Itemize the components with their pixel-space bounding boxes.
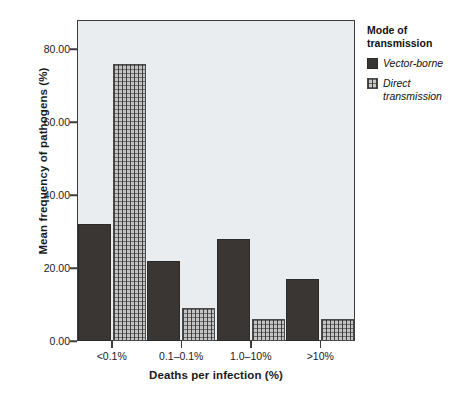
y-tick-mark — [70, 194, 77, 196]
y-tick-label: 80.00 — [10, 43, 70, 55]
legend-title-line2: transmission — [367, 37, 432, 49]
legend-item-direct-transmission[interactable]: Direct transmission — [367, 77, 452, 103]
plot-area — [77, 20, 355, 341]
direct-transmission-swatch-icon — [367, 78, 378, 89]
y-tick-mark — [70, 121, 77, 123]
legend-title-line1: Mode of — [367, 24, 407, 36]
vector-borne-swatch-icon — [367, 58, 378, 69]
legend-item-vector-borne[interactable]: Vector-borne — [367, 57, 452, 70]
y-axis-title: Mean frequency of pathogens (%) — [37, 41, 49, 281]
x-axis-title: Deaths per infection (%) — [77, 369, 355, 381]
y-tick-mark — [70, 48, 77, 50]
y-tick-label: 60.00 — [10, 116, 70, 128]
y-tick-label: 20.00 — [10, 262, 70, 274]
x-tick-mark — [320, 341, 322, 348]
bar-chart-figure: Mean frequency of pathogens (%) 0.0020.0… — [0, 0, 452, 395]
legend: Mode of transmission Vector-borne Direct… — [367, 24, 452, 110]
legend-label-direct-transmission: Direct transmission — [383, 77, 452, 103]
y-tick-mark — [70, 340, 77, 342]
x-tick-mark — [181, 341, 183, 348]
x-tick-mark — [250, 341, 252, 348]
x-tick-label: >10% — [275, 350, 365, 362]
x-tick-mark — [111, 341, 113, 348]
y-tick-label: 40.00 — [10, 189, 70, 201]
plot-background — [78, 21, 354, 340]
legend-label-vector-borne: Vector-borne — [383, 57, 443, 70]
y-tick-label: 0.00 — [10, 335, 70, 347]
legend-title: Mode of transmission — [367, 24, 452, 50]
y-tick-mark — [70, 267, 77, 269]
